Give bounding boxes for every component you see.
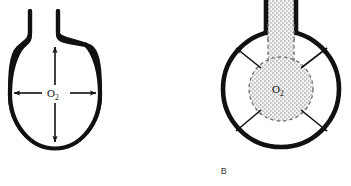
flask-a-o2-element: O xyxy=(47,87,55,99)
flask-a-o2-subscript: 2 xyxy=(55,93,59,102)
diffusion-figure-svg: O2 xyxy=(0,0,351,186)
flask-b-o2-element: O xyxy=(272,83,280,95)
flask-b-neck-opening-mask xyxy=(268,24,294,40)
flask-b-o2-subscript: 2 xyxy=(280,89,284,98)
figure-container: O2 xyxy=(0,0,351,186)
panel-b-letter: B xyxy=(221,166,227,176)
